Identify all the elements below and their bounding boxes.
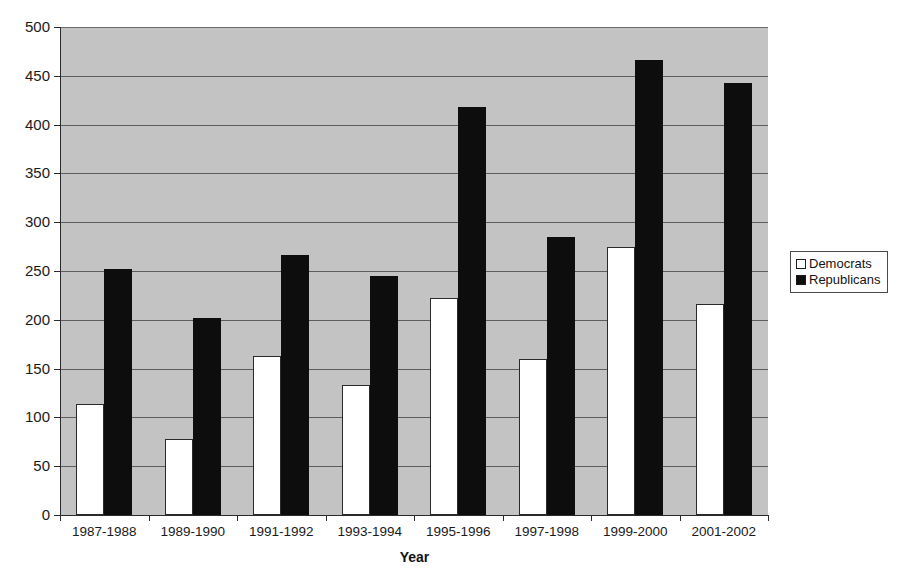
y-tick-label: 300 [0,214,50,229]
x-tick-mark [591,515,592,521]
chart-legend: Democrats Republicans [790,251,888,293]
black-square-icon [796,275,806,285]
x-tick-label: 1997-1998 [503,524,592,540]
y-tick-mark [54,222,60,223]
y-tick-label: 450 [0,68,50,83]
x-tick-label: 2001-2002 [680,524,769,540]
y-tick-mark [54,125,60,126]
y-tick-label: 400 [0,117,50,132]
bar-republicans-1995-1996 [458,107,486,515]
bar-republicans-1989-1990 [193,318,221,515]
legend-label-republicans: Republicans [809,273,881,287]
x-tick-mark [414,515,415,521]
x-tick-mark [503,515,504,521]
bar-republicans-1987-1988 [104,269,132,515]
x-tick-mark [237,515,238,521]
y-tick-mark [54,369,60,370]
y-tick-label: 200 [0,312,50,327]
x-tick-mark [680,515,681,521]
gridline [60,27,768,28]
x-tick-label: 1993-1994 [326,524,415,540]
bar-democrats-1991-1992 [253,356,281,515]
bar-democrats-1993-1994 [342,385,370,515]
bar-democrats-1987-1988 [76,404,104,515]
y-tick-mark [54,417,60,418]
x-tick-label: 1991-1992 [237,524,326,540]
legend-label-democrats: Democrats [809,257,872,271]
y-tick-mark [54,173,60,174]
bar-republicans-2001-2002 [724,83,752,515]
y-tick-label: 50 [0,458,50,473]
y-tick-mark [54,27,60,28]
x-tick-label: 1999-2000 [591,524,680,540]
white-square-icon [796,259,806,269]
bar-democrats-1999-2000 [607,247,635,515]
y-axis-line [60,27,61,516]
bar-chart: 050100150200250300350400450500 1987-1988… [0,0,914,586]
y-tick-mark [54,466,60,467]
x-tick-label: 1987-1988 [60,524,149,540]
y-tick-label: 500 [0,19,50,34]
bar-republicans-1993-1994 [370,276,398,515]
bar-republicans-1991-1992 [281,255,309,515]
bar-republicans-1999-2000 [635,60,663,515]
y-tick-label: 250 [0,263,50,278]
y-tick-mark [54,271,60,272]
y-tick-mark [54,320,60,321]
y-tick-label: 150 [0,361,50,376]
bar-democrats-1989-1990 [165,439,193,515]
bar-democrats-1995-1996 [430,298,458,515]
y-tick-label: 0 [0,507,50,522]
y-tick-label: 350 [0,165,50,180]
x-tick-mark [326,515,327,521]
bar-republicans-1997-1998 [547,237,575,515]
y-tick-mark [54,76,60,77]
x-tick-mark [60,515,61,521]
bar-democrats-2001-2002 [696,304,724,515]
x-tick-label: 1995-1996 [414,524,503,540]
x-tick-label: 1989-1990 [149,524,238,540]
x-tick-mark [149,515,150,521]
x-tick-mark [768,515,769,521]
x-axis-title: Year [60,549,769,565]
bar-democrats-1997-1998 [519,359,547,515]
y-tick-label: 100 [0,409,50,424]
legend-item-republicans: Republicans [796,272,881,288]
legend-item-democrats: Democrats [796,256,881,272]
bottom-caption [8,578,608,586]
